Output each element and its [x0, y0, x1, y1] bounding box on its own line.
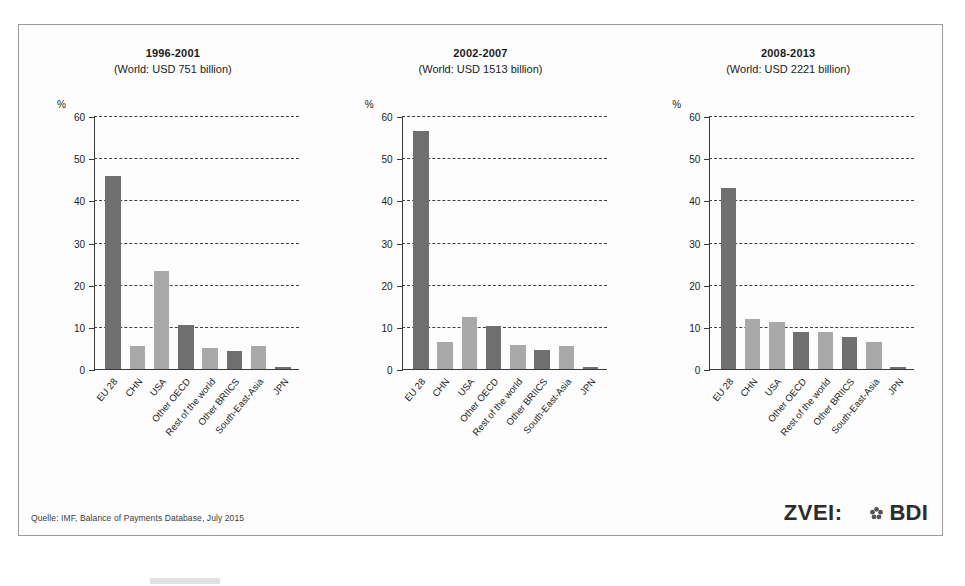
chart-panel-2008-2013: 2008-2013 (World: USD 2221 billion) % 01…: [634, 25, 942, 455]
bar-slot: [150, 117, 174, 369]
panel-subtitle: (World: USD 1513 billion): [327, 63, 635, 75]
y-tick-label: 60: [689, 112, 700, 123]
y-tick-label: 50: [382, 154, 393, 165]
bar-slot: [481, 117, 505, 369]
y-tick-label: 40: [74, 196, 85, 207]
y-tick-label: 40: [382, 196, 393, 207]
bar-slot: [101, 117, 125, 369]
bar[interactable]: [413, 131, 429, 369]
x-tick-labels: EU 28CHNUSAOther OECDRest of the worldOt…: [403, 372, 608, 452]
panel-title: 1996-2001: [19, 47, 327, 59]
y-tick-label: 20: [74, 280, 85, 291]
bar-slot: [174, 117, 198, 369]
bar[interactable]: [105, 176, 121, 369]
x-tick-slot: CHN: [125, 372, 149, 452]
bar-slot: [433, 117, 457, 369]
bdi-logo: BDI: [869, 500, 929, 526]
bar-slot: [716, 117, 740, 369]
bar[interactable]: [769, 322, 785, 369]
x-tick-slot: EU 28: [409, 372, 433, 452]
panel-row: 1996-2001 (World: USD 751 billion) % 010…: [19, 25, 942, 455]
y-tick-label: 20: [382, 280, 393, 291]
bar-slot: [813, 117, 837, 369]
bar-slot: [198, 117, 222, 369]
panel-title: 2008-2013: [634, 47, 942, 59]
y-tick-label: 30: [689, 238, 700, 249]
bar-slot: [838, 117, 862, 369]
chart-panel-2002-2007: 2002-2007 (World: USD 1513 billion) % 01…: [327, 25, 635, 455]
y-tick: [704, 370, 710, 371]
x-tick-slot: JPN: [272, 372, 296, 452]
bar-slot: [886, 117, 910, 369]
bar-slot: [457, 117, 481, 369]
chart-panel-1996-2001: 1996-2001 (World: USD 751 billion) % 010…: [19, 25, 327, 455]
x-tick-slot: JPN: [579, 372, 603, 452]
panel-title: 2002-2007: [327, 47, 635, 59]
y-tick: [89, 370, 95, 371]
y-tick-label: 60: [74, 112, 85, 123]
x-tick-slot: South-East-Asia: [863, 372, 887, 452]
y-tick-label: 0: [79, 365, 85, 376]
bar[interactable]: [721, 188, 737, 369]
x-tick-slot: CHN: [433, 372, 457, 452]
plot-area: 0102030405060: [402, 117, 607, 370]
x-tick-slot: South-East-Asia: [247, 372, 271, 452]
chart-figure: 1996-2001 (World: USD 751 billion) % 010…: [18, 24, 943, 536]
bar[interactable]: [486, 326, 502, 369]
y-axis-unit-label: %: [365, 99, 374, 110]
x-tick-slot: EU 28: [101, 372, 125, 452]
bar-slot: [271, 117, 295, 369]
bar-slot: [765, 117, 789, 369]
y-tick: [397, 370, 403, 371]
y-tick-label: 50: [689, 154, 700, 165]
bar-slot: [409, 117, 433, 369]
y-tick-label: 50: [74, 154, 85, 165]
x-tick-slot: South-East-Asia: [555, 372, 579, 452]
panel-subtitle: (World: USD 751 billion): [19, 63, 327, 75]
bar-slot: [506, 117, 530, 369]
x-tick-slot: EU 28: [716, 372, 740, 452]
y-tick-label: 20: [689, 280, 700, 291]
bar[interactable]: [178, 325, 194, 369]
y-tick-label: 0: [695, 365, 701, 376]
y-tick-label: 10: [689, 322, 700, 333]
bdi-logo-text: BDI: [890, 500, 929, 526]
y-tick-label: 10: [74, 322, 85, 333]
bar-series: [95, 117, 299, 369]
bar-slot: [789, 117, 813, 369]
x-tick-labels: EU 28CHNUSAOther OECDRest of the worldOt…: [710, 372, 915, 452]
y-axis-unit-label: %: [57, 99, 66, 110]
bar-slot: [530, 117, 554, 369]
y-tick-label: 10: [382, 322, 393, 333]
bar-series: [710, 117, 914, 369]
page-artifact: [150, 578, 220, 584]
panel-subtitle: (World: USD 2221 billion): [634, 63, 942, 75]
x-tick-slot: CHN: [741, 372, 765, 452]
bar[interactable]: [793, 332, 809, 369]
y-tick-label: 0: [387, 365, 393, 376]
bar-slot: [222, 117, 246, 369]
y-tick-label: 60: [382, 112, 393, 123]
x-tick-labels: EU 28CHNUSAOther OECDRest of the worldOt…: [95, 372, 300, 452]
bar-slot: [125, 117, 149, 369]
flower-mark-icon: [869, 506, 884, 521]
zvei-logo: ZVEI:: [784, 500, 843, 526]
bar[interactable]: [462, 317, 478, 369]
bar[interactable]: [154, 271, 170, 369]
y-tick-label: 30: [74, 238, 85, 249]
bar-slot: [578, 117, 602, 369]
bar-series: [403, 117, 607, 369]
y-axis-unit-label: %: [672, 99, 681, 110]
y-tick-label: 30: [382, 238, 393, 249]
source-note: Quelle: IMF, Balance of Payments Databas…: [31, 513, 244, 523]
bar-slot: [741, 117, 765, 369]
logo-group: ZVEI: BDI: [784, 500, 928, 526]
y-tick-label: 40: [689, 196, 700, 207]
x-tick-slot: JPN: [887, 372, 911, 452]
